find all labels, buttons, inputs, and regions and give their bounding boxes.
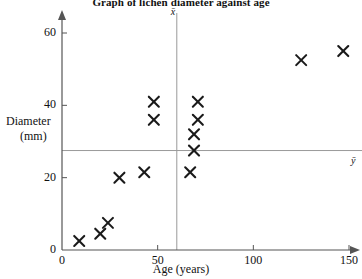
- y-tick-label: 20: [34, 170, 56, 185]
- data-point-marker: [74, 236, 84, 246]
- data-point-marker: [103, 218, 113, 228]
- mean-x-label: x̄: [171, 6, 175, 17]
- x-tick-label: 150: [334, 253, 362, 268]
- data-point-marker: [193, 97, 203, 107]
- scatter-chart: Graph of lichen diameter against age Dia…: [0, 0, 362, 279]
- data-point-marker: [139, 167, 149, 177]
- data-point-marker: [114, 173, 124, 183]
- data-point-marker: [149, 97, 159, 107]
- data-points-group: [74, 46, 348, 246]
- y-tick-label: 60: [34, 25, 56, 40]
- data-point-marker: [193, 115, 203, 125]
- x-tick-label: 50: [143, 253, 173, 268]
- y-tick-label: 40: [34, 97, 56, 112]
- mean-y-label: ȳ: [351, 155, 355, 166]
- data-point-marker: [95, 229, 105, 239]
- y-axis-arrowhead: [58, 10, 66, 20]
- data-point-marker: [296, 55, 306, 65]
- data-point-marker: [149, 115, 159, 125]
- mean-lines-group: [62, 13, 362, 250]
- data-point-marker: [189, 129, 199, 139]
- plot-area: [0, 0, 362, 279]
- x-tick-label: 0: [47, 253, 77, 268]
- x-tick-label: 100: [238, 253, 268, 268]
- data-point-marker: [338, 46, 348, 56]
- data-point-marker: [185, 167, 195, 177]
